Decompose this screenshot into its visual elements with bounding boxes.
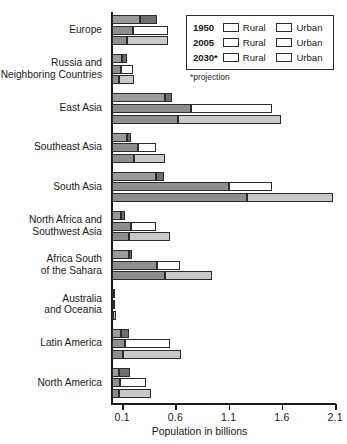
legend-swatch-rural-1950	[223, 23, 239, 32]
bar-segment-rural	[112, 350, 124, 359]
bar-segment-rural	[112, 339, 126, 348]
x-tick	[335, 404, 336, 410]
bar-segment-urban	[165, 93, 172, 102]
bar-segment-rural	[112, 104, 192, 113]
legend-swatch-urban-2030	[276, 53, 292, 62]
bar-segment-rural	[112, 154, 134, 163]
bar-segment-urban	[133, 26, 168, 35]
bar-segment-urban	[121, 211, 125, 220]
bar-segment-urban	[125, 339, 170, 348]
x-axis-title-text: Population in billions	[100, 425, 248, 437]
legend-row: 2005 Rural Urban	[193, 35, 328, 50]
category-label: South Asia	[0, 181, 102, 193]
bar-segment-rural	[112, 378, 121, 387]
legend-row: 2030* Rural Urban	[193, 50, 328, 65]
bar-segment-urban	[113, 311, 116, 320]
bar-segment-urban	[119, 368, 130, 377]
bar-segment-urban	[129, 250, 132, 259]
legend-year-1950: 1950	[193, 22, 221, 33]
category-label: Russia and Neighboring Countries	[0, 57, 102, 80]
bar-segment-urban	[138, 143, 156, 152]
legend-row: 1950 Rural Urban	[193, 20, 328, 35]
category-label: North America	[0, 377, 102, 389]
bar-segment-rural	[112, 54, 123, 63]
bar-segment-rural	[112, 115, 178, 124]
bar-segment-urban	[113, 300, 115, 309]
x-axis-line	[111, 403, 336, 405]
bar-segment-rural	[112, 93, 165, 102]
bar-segment-rural	[112, 182, 229, 191]
bar-segment-rural	[112, 65, 122, 74]
x-tick-label: 0.1	[115, 411, 130, 423]
bar-segment-rural	[112, 389, 119, 398]
bar-segment-urban	[120, 378, 146, 387]
bar-segment-rural	[112, 26, 133, 35]
category-label: Latin America	[0, 337, 102, 349]
bar-segment-urban	[119, 389, 151, 398]
bar-segment-rural	[112, 250, 129, 259]
bar-segment-rural	[112, 36, 128, 45]
bar-segment-rural	[112, 261, 158, 270]
bar-segment-urban	[191, 104, 272, 113]
bar-segment-urban	[127, 133, 130, 142]
bar-segment-rural	[112, 75, 119, 84]
bar-segment-urban	[113, 289, 115, 298]
bar-segment-urban	[247, 193, 333, 202]
category-label: Australia and Oceania	[0, 293, 102, 316]
bar-segment-rural	[112, 211, 122, 220]
legend-swatch-urban-1950	[276, 23, 292, 32]
bar-segment-urban	[229, 182, 273, 191]
legend-year-2030: 2030*	[193, 52, 221, 63]
legend-swatch-urban-2005	[276, 38, 292, 47]
bar-segment-urban	[129, 232, 171, 241]
category-label: Africa South of the Sahara	[0, 253, 102, 276]
category-label: East Asia	[0, 102, 102, 114]
bar-segment-urban	[121, 329, 128, 338]
legend-projection-note: *projection	[190, 72, 230, 82]
bar-segment-urban	[127, 36, 167, 45]
bar-segment-urban	[156, 172, 163, 181]
x-axis-title: Population in billions	[0, 425, 347, 437]
bar-segment-rural	[112, 222, 131, 231]
bar-segment-rural	[112, 329, 122, 338]
legend-label-rural-1950: Rural	[243, 22, 275, 33]
x-tick-label: 0.6	[168, 411, 183, 423]
bar-segment-urban	[119, 75, 134, 84]
category-label: Southeast Asia	[0, 141, 102, 153]
bar-segment-rural	[112, 172, 157, 181]
bar-segment-urban	[123, 350, 181, 359]
bar-segment-rural	[112, 193, 247, 202]
bar-segment-rural	[112, 15, 141, 24]
legend-label-rural-2030: Rural	[243, 52, 275, 63]
x-tick	[175, 404, 176, 410]
bar-segment-urban	[122, 54, 127, 63]
x-tick-label: 1.6	[274, 411, 289, 423]
bar-segment-urban	[140, 15, 157, 24]
legend-label-urban-1950: Urban	[296, 22, 328, 33]
category-label: North Africa and Southwest Asia	[0, 214, 102, 237]
legend-year-2005: 2005	[193, 37, 221, 48]
bar-segment-rural	[112, 133, 128, 142]
bar-segment-rural	[112, 143, 139, 152]
legend-label-urban-2030: Urban	[296, 52, 328, 63]
legend-swatch-rural-2005	[223, 38, 239, 47]
bar-segment-urban	[131, 222, 157, 231]
legend-label-urban-2005: Urban	[296, 37, 328, 48]
x-tick	[122, 404, 123, 410]
x-tick	[282, 404, 283, 410]
chart-legend: 1950 Rural Urban 2005 Rural Urban 2030* …	[186, 15, 334, 70]
bar-segment-rural	[112, 232, 129, 241]
bar-segment-urban	[165, 271, 212, 280]
category-label: Europe	[0, 24, 102, 36]
bar-segment-urban	[178, 115, 281, 124]
bar-segment-urban	[157, 261, 179, 270]
x-tick-label: 2.1	[328, 411, 343, 423]
bar-segment-rural	[112, 368, 119, 377]
population-rural-urban-chart: 0.10.61.11.62.1 Population in billions 1…	[0, 0, 347, 444]
legend-label-rural-2005: Rural	[243, 37, 275, 48]
x-tick	[229, 404, 230, 410]
legend-swatch-rural-2030	[223, 53, 239, 62]
bar-segment-urban	[134, 154, 165, 163]
bar-segment-urban	[121, 65, 133, 74]
bar-segment-rural	[112, 271, 165, 280]
